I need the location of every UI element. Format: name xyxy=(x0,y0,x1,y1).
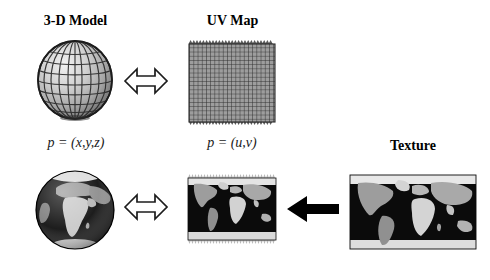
title-uv-map: UV Map xyxy=(189,13,276,29)
double-headed-arrow-top xyxy=(122,64,170,98)
textured-globe xyxy=(32,168,118,254)
uv-mapping-figure: 3-D Model UV Map xyxy=(0,0,490,280)
left-arrow xyxy=(285,193,341,225)
caption-model-point: p = (x,y,z) xyxy=(32,135,120,151)
double-headed-arrow-bottom xyxy=(122,190,170,224)
uv-grid xyxy=(185,39,279,126)
mapped-texture xyxy=(184,172,280,248)
wireframe-sphere xyxy=(34,38,116,122)
source-texture xyxy=(348,172,478,252)
title-texture: Texture xyxy=(375,138,451,154)
caption-uv-point: p = (u,v) xyxy=(190,135,274,151)
title-3d-model: 3-D Model xyxy=(23,13,128,29)
